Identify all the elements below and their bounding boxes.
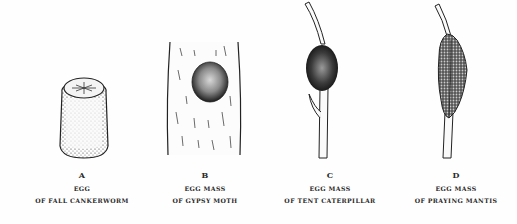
- figure-c: C EGG MASS OF TENT CATERPILLAR: [265, 0, 395, 224]
- figure-c-caption-line2: OF TENT CATERPILLAR: [265, 195, 395, 207]
- figure-b-caption-line2: OF GYPSY MOTH: [150, 195, 260, 207]
- figure-c-letter: C: [265, 170, 395, 180]
- figure-a-caption-line1: EGG: [22, 183, 142, 195]
- figure-b-letter: B: [150, 170, 260, 180]
- figure-d: D EGG MASS OF PRAYING MANTIS: [395, 0, 517, 224]
- figure-d-caption-line1: EGG MASS: [395, 183, 517, 195]
- figure-d-letter: D: [395, 170, 517, 180]
- figure-a-caption-line2: OF FALL CANKERWORM: [22, 195, 142, 207]
- gypsy-moth-egg-mass-illustration: [150, 0, 260, 170]
- figure-d-caption-line2: OF PRAYING MANTIS: [395, 195, 517, 207]
- praying-mantis-egg-mass-illustration: [395, 0, 517, 170]
- figure-b: B EGG MASS OF GYPSY MOTH: [150, 0, 260, 224]
- figure-c-caption-line1: EGG MASS: [265, 183, 395, 195]
- figure-a-letter: A: [22, 170, 142, 180]
- cankerworm-egg-illustration: [22, 0, 142, 170]
- tent-caterpillar-egg-mass-illustration: [265, 0, 395, 170]
- figure-b-caption-line1: EGG MASS: [150, 183, 260, 195]
- figure-a: A EGG OF FALL CANKERWORM: [22, 0, 142, 224]
